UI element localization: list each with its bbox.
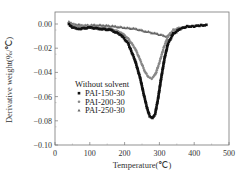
x-tick-label: 0	[53, 149, 57, 158]
legend-entry: PAI-250-30	[85, 105, 125, 115]
x-axis-ticks: 0100200300400500	[53, 142, 235, 158]
x-axis-label: Temperature(℃)	[113, 160, 172, 170]
x-tick-label: 400	[188, 149, 200, 158]
y-tick-label: 0.00	[38, 20, 52, 29]
x-tick-label: 200	[119, 149, 131, 158]
y-axis-label: Derivative weight(%/℃)	[4, 37, 14, 123]
y-tick-label: −0.10	[33, 141, 52, 150]
x-tick-label: 500	[223, 149, 235, 158]
y-axis-ticks: 0.00−0.02−0.04−0.06−0.08−0.10	[33, 20, 58, 151]
y-tick-label: −0.04	[33, 68, 52, 77]
y-tick-label: −0.08	[33, 117, 52, 126]
legend: Without solventPAI-150-30PAI-200-30PAI-2…	[75, 79, 130, 115]
tga-derivative-chart: 0.00−0.02−0.04−0.06−0.08−0.10 0100200300…	[0, 0, 251, 181]
y-tick-label: −0.02	[33, 44, 52, 53]
x-tick-label: 300	[153, 149, 165, 158]
x-tick-label: 100	[84, 149, 96, 158]
y-tick-label: −0.06	[33, 93, 52, 102]
